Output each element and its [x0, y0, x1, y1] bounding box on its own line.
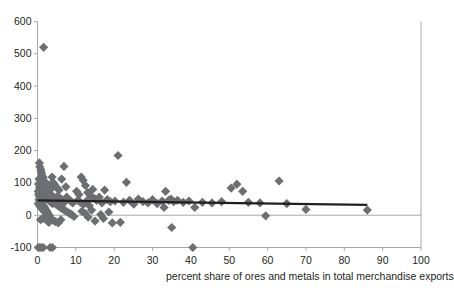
data-point-marker: [217, 197, 226, 206]
data-point-marker: [108, 218, 117, 227]
data-point-marker: [100, 185, 109, 194]
y-tick-label: 600: [14, 16, 32, 27]
x-tick-label: 20: [94, 255, 134, 266]
data-point-marker: [275, 176, 284, 185]
data-point-marker: [113, 151, 122, 160]
y-tick-label: 500: [14, 48, 32, 59]
x-tick-label: 70: [286, 255, 326, 266]
x-tick-label: 90: [363, 255, 403, 266]
data-point-marker: [238, 187, 247, 196]
y-tick-label: 400: [14, 81, 32, 92]
y-tick-label: 300: [14, 113, 32, 124]
data-point-marker: [122, 178, 131, 187]
x-tick-label: 30: [133, 255, 173, 266]
data-point-marker: [167, 223, 176, 232]
axis-lines: [38, 22, 422, 248]
data-point-marker: [261, 211, 270, 220]
x-axis-title: percent share of ores and metals in tota…: [166, 271, 454, 282]
data-points: [34, 43, 372, 252]
data-point-marker: [190, 203, 199, 212]
data-point-marker: [363, 205, 372, 214]
x-tick-label: 0: [18, 255, 58, 266]
data-point-marker: [161, 187, 170, 196]
y-tick-label: 200: [14, 145, 32, 156]
data-point-marker: [188, 243, 197, 252]
data-point-marker: [59, 162, 68, 171]
y-tick-label: 0: [26, 210, 32, 221]
data-point-marker: [39, 43, 48, 52]
x-tick-label: 100: [401, 255, 441, 266]
y-tick-label: 100: [14, 177, 32, 188]
data-point-marker: [57, 174, 66, 183]
x-tick-label: 40: [171, 255, 211, 266]
y-tick-label: -100: [10, 242, 31, 253]
data-point-marker: [116, 218, 125, 227]
x-tick-label: 60: [248, 255, 288, 266]
x-tick-label: 10: [56, 255, 96, 266]
x-tick-label: 50: [209, 255, 249, 266]
data-point-marker: [301, 205, 310, 214]
x-tick-label: 80: [324, 255, 364, 266]
